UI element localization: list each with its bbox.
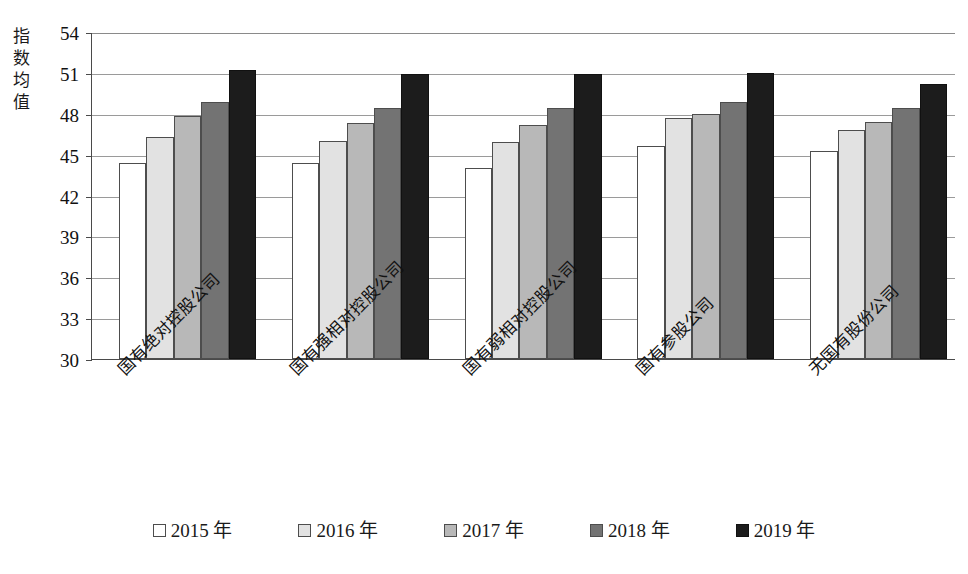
y-axis-tick <box>86 360 92 361</box>
legend-swatch-icon <box>298 524 311 537</box>
bar <box>892 108 919 359</box>
y-axis-tick-label: 39 <box>35 228 79 247</box>
bar <box>292 163 319 359</box>
legend-item[interactable]: 2019 年 <box>736 521 816 540</box>
legend-label: 2016 年 <box>316 521 378 540</box>
legend-swatch-icon <box>444 524 457 537</box>
y-axis-tick-label: 54 <box>35 24 79 43</box>
y-axis-title-char: 值 <box>4 92 38 114</box>
bar <box>465 168 492 359</box>
legend-item[interactable]: 2015 年 <box>153 521 233 540</box>
legend-item[interactable]: 2018 年 <box>590 521 670 540</box>
legend-swatch-icon <box>590 524 603 537</box>
y-axis-tick-label: 48 <box>35 106 79 125</box>
bar <box>401 74 428 359</box>
bar <box>637 146 664 359</box>
y-axis-tick-label: 33 <box>35 310 79 329</box>
y-axis-title-char: 数 <box>4 48 38 70</box>
bar <box>720 102 747 360</box>
bar <box>810 151 837 359</box>
bar <box>574 74 601 359</box>
bar <box>201 102 228 360</box>
bar <box>229 70 256 359</box>
bar <box>920 84 947 359</box>
y-axis-tick-label: 42 <box>35 188 79 207</box>
bar <box>747 73 774 359</box>
bar-chart: 指 数 均 值 545148454239363330 国有绝对控股公司国有强相对… <box>0 0 968 574</box>
y-axis-tick-label: 51 <box>35 65 79 84</box>
bar <box>374 108 401 359</box>
legend-label: 2018 年 <box>608 521 670 540</box>
legend-label: 2015 年 <box>171 521 233 540</box>
legend-item[interactable]: 2017 年 <box>444 521 524 540</box>
y-axis-tick-label: 30 <box>35 351 79 370</box>
legend-label: 2019 年 <box>754 521 816 540</box>
y-axis-title: 指 数 均 值 <box>4 26 38 114</box>
y-axis-title-char: 指 <box>4 26 38 48</box>
legend-swatch-icon <box>153 524 166 537</box>
legend-swatch-icon <box>736 524 749 537</box>
bar <box>119 163 146 359</box>
legend-item[interactable]: 2016 年 <box>298 521 378 540</box>
legend-label: 2017 年 <box>462 521 524 540</box>
y-axis-tick-label: 45 <box>35 147 79 166</box>
bar <box>547 108 574 359</box>
chart-legend: 2015 年2016 年2017 年2018 年2019 年 <box>0 515 968 545</box>
y-axis-tick-label: 36 <box>35 269 79 288</box>
y-axis-title-char: 均 <box>4 70 38 92</box>
